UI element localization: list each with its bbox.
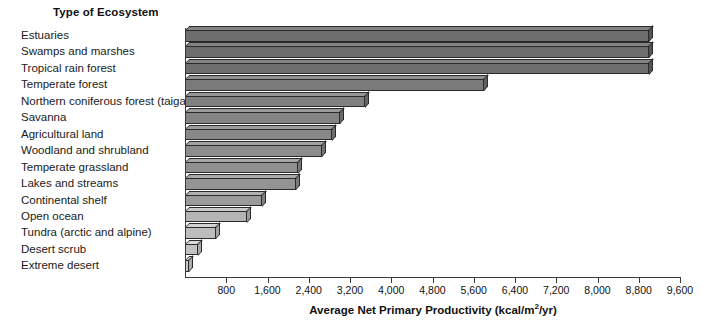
x-axis-tick xyxy=(226,278,227,283)
category-column-title: Type of Ecosystem xyxy=(53,6,159,18)
category-label: Temperate grassland xyxy=(21,161,128,173)
bar-side-face xyxy=(365,91,369,107)
category-label: Lakes and streams xyxy=(21,177,118,189)
x-axis-tick xyxy=(680,278,681,283)
x-axis-tick xyxy=(515,278,516,283)
x-axis-title-main: Average Net Primary Productivity (kcal/m xyxy=(309,304,534,316)
bar-face xyxy=(185,63,649,75)
bar-face xyxy=(185,211,247,223)
x-axis-tick xyxy=(309,278,310,283)
x-axis-tick-label: 2,400 xyxy=(296,284,322,296)
x-axis-tick-label: 8,800 xyxy=(626,284,652,296)
x-axis-tick xyxy=(598,278,599,283)
bar xyxy=(185,162,298,174)
x-axis-tick-label: 6,400 xyxy=(502,284,528,296)
bar-side-face xyxy=(332,124,336,140)
bar-side-face xyxy=(322,140,326,156)
bar xyxy=(185,145,322,157)
bar xyxy=(185,63,649,75)
x-axis-tick-label: 9,600 xyxy=(667,284,693,296)
bar xyxy=(185,227,216,239)
bar-face xyxy=(185,30,649,42)
x-axis-tick-label: 8,000 xyxy=(584,284,610,296)
x-axis-tick xyxy=(391,278,392,283)
bar xyxy=(185,244,198,256)
category-label: Agricultural land xyxy=(21,128,103,140)
x-axis-tick-label: 4,000 xyxy=(378,284,404,296)
x-axis-tick-label: 7,200 xyxy=(543,284,569,296)
x-axis-tick xyxy=(433,278,434,283)
bar xyxy=(185,178,296,190)
category-label: Savanna xyxy=(21,111,66,123)
x-axis-tick-label: 5,600 xyxy=(461,284,487,296)
bar-face xyxy=(185,178,296,190)
bar xyxy=(185,46,649,58)
category-label: Temperate forest xyxy=(21,78,107,90)
bar xyxy=(185,96,365,108)
bar xyxy=(185,211,247,223)
bar-face xyxy=(185,129,332,141)
bar xyxy=(185,195,262,207)
bar xyxy=(185,30,649,42)
bar-side-face xyxy=(340,107,344,123)
bar xyxy=(185,79,484,91)
x-axis-tick-label: 800 xyxy=(217,284,235,296)
bar-side-face xyxy=(484,75,488,91)
bar xyxy=(185,112,340,124)
x-axis-tick xyxy=(350,278,351,283)
x-axis-tick xyxy=(268,278,269,283)
bar-side-face xyxy=(649,58,653,74)
x-axis-tick-label: 4,800 xyxy=(419,284,445,296)
x-axis-tick-label: 1,600 xyxy=(254,284,280,296)
x-axis-title-tail: /yr) xyxy=(539,304,557,316)
bar xyxy=(185,129,332,141)
bar-side-face xyxy=(649,42,653,58)
category-label: Continental shelf xyxy=(21,194,107,206)
bar-face xyxy=(185,145,322,157)
bar-side-face xyxy=(216,223,220,239)
bar-side-face xyxy=(189,256,193,272)
category-label: Open ocean xyxy=(21,210,84,222)
bar-face xyxy=(185,162,298,174)
category-label: Tropical rain forest xyxy=(21,62,116,74)
category-label: Desert scrub xyxy=(21,243,86,255)
bar-side-face xyxy=(296,173,300,189)
category-label: Estuaries xyxy=(21,29,69,41)
category-label: Extreme desert xyxy=(21,259,99,271)
bar-side-face xyxy=(247,206,251,222)
category-label: Swamps and marshes xyxy=(21,45,135,57)
bar-face xyxy=(185,79,484,91)
x-axis-tick-label: 3,200 xyxy=(337,284,363,296)
category-label: Woodland and shrubland xyxy=(21,144,149,156)
x-axis-tick xyxy=(639,278,640,283)
bar-side-face xyxy=(298,157,302,173)
category-label: Northern coniferous forest (taiga) xyxy=(21,95,190,107)
bar-side-face xyxy=(649,25,653,41)
y-axis-line xyxy=(185,28,186,278)
bar-face xyxy=(185,195,262,207)
x-axis-tick xyxy=(556,278,557,283)
x-axis-tick xyxy=(474,278,475,283)
bar-side-face xyxy=(262,190,266,206)
bar-side-face xyxy=(198,239,202,255)
bar-face xyxy=(185,96,365,108)
bar-face xyxy=(185,244,198,256)
chart-canvas: Type of Ecosystem EstuariesSwamps and ma… xyxy=(0,0,702,321)
bar-face xyxy=(185,227,216,239)
bar-face xyxy=(185,112,340,124)
x-axis-title: Average Net Primary Productivity (kcal/m… xyxy=(185,302,681,316)
bar-face xyxy=(185,46,649,58)
category-label: Tundra (arctic and alpine) xyxy=(21,226,152,238)
